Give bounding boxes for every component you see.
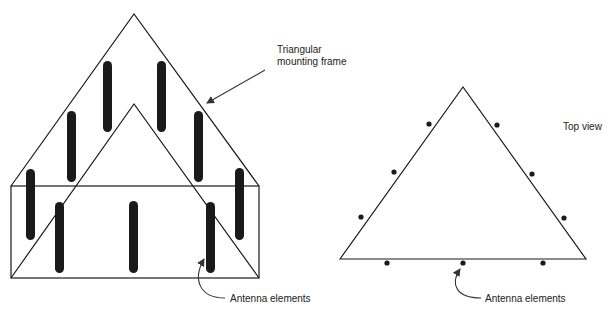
outer-triangle-frame — [11, 14, 259, 186]
antenna-element-rod — [157, 61, 166, 132]
antenna-callout-arrow-right — [455, 269, 481, 298]
antenna-element-rod — [206, 202, 215, 273]
antenna-element-rod — [103, 61, 112, 132]
antenna-elements-label-right: Antenna elements — [485, 293, 566, 305]
antenna-element-rod — [194, 111, 203, 182]
antenna-element-dot — [460, 260, 465, 265]
top-view-label: Top view — [563, 121, 602, 133]
top-view-triangle — [340, 87, 586, 259]
antenna-element-rod — [235, 168, 244, 240]
antenna-element-rod — [26, 169, 35, 240]
antenna-element-dot — [426, 121, 431, 126]
antenna-element-rod — [55, 202, 64, 273]
antenna-element-dot — [540, 260, 545, 265]
antenna-element-rod — [129, 201, 138, 273]
mounting-frame-label: Triangular mounting frame — [277, 44, 346, 68]
antenna-element-dot — [391, 169, 396, 174]
antenna-elements-label-left: Antenna elements — [230, 293, 311, 305]
antenna-element-rod — [67, 111, 76, 182]
antenna-element-dot — [494, 122, 499, 127]
antenna-array-diagram: Triangular mounting frame Top view Anten… — [0, 0, 610, 320]
mounting-frame-label-line2: mounting frame — [277, 56, 346, 68]
antenna-element-dot — [529, 171, 534, 176]
perspective-view — [11, 14, 259, 278]
antenna-element-dot — [561, 215, 566, 220]
top-view — [340, 87, 586, 266]
antenna-element-dot — [384, 260, 389, 265]
mounting-frame-label-line1: Triangular — [277, 44, 346, 56]
antenna-element-dot — [358, 214, 363, 219]
frame-callout-arrow — [207, 70, 265, 103]
